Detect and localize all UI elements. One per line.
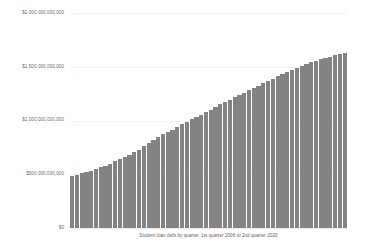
y-tick-label: $1,500,000,000,000	[0, 64, 64, 70]
bar	[94, 169, 98, 228]
bar	[343, 53, 347, 228]
bar	[185, 122, 189, 228]
bar	[161, 134, 165, 228]
bar	[108, 164, 112, 229]
bar	[142, 146, 146, 228]
bar	[123, 157, 127, 228]
bar	[84, 172, 88, 228]
bar	[147, 143, 151, 228]
bar	[223, 102, 227, 228]
y-tick-label: $1,000,000,000,000	[0, 117, 64, 123]
bar	[80, 173, 84, 228]
bar	[113, 161, 117, 228]
bar	[271, 79, 275, 228]
bar	[237, 95, 241, 228]
bar	[256, 86, 260, 228]
bar	[261, 83, 265, 228]
bar	[180, 124, 184, 228]
bar	[218, 104, 222, 228]
bar	[213, 107, 217, 228]
y-tick-label: $2,000,000,000,000	[0, 10, 64, 16]
bar	[132, 152, 136, 228]
bar	[295, 68, 299, 228]
bar	[194, 117, 198, 228]
bar	[242, 93, 246, 228]
bar	[323, 58, 327, 228]
bar	[228, 100, 232, 228]
student-loan-debt-bar-chart: $2,000,000,000,000$1,500,000,000,000$1,0…	[0, 0, 367, 249]
bar	[247, 90, 251, 228]
bar	[209, 110, 213, 228]
bar	[166, 132, 170, 228]
bar	[70, 176, 74, 228]
bar	[204, 112, 208, 228]
bar	[137, 150, 141, 228]
bar	[103, 166, 107, 228]
bar	[314, 61, 318, 228]
gridline	[70, 228, 347, 229]
bar	[328, 57, 332, 228]
bar	[170, 130, 174, 228]
bar	[290, 70, 294, 228]
bar	[190, 119, 194, 228]
chart-caption: Student loan debt by quarter, 1st quarte…	[70, 232, 347, 239]
bar	[75, 175, 79, 228]
bar	[319, 59, 323, 228]
bar	[151, 140, 155, 228]
bar	[280, 74, 284, 228]
bar	[304, 64, 308, 228]
bar	[338, 54, 342, 228]
bar	[118, 159, 122, 228]
bar	[309, 62, 313, 228]
bar	[252, 88, 256, 228]
bar	[175, 127, 179, 228]
bar	[199, 115, 203, 228]
bar	[285, 72, 289, 228]
plot-area	[70, 13, 347, 228]
bar	[156, 137, 160, 228]
bar	[276, 76, 280, 228]
y-tick-label: $500,000,000,000	[0, 171, 64, 177]
y-tick-label: $0	[0, 225, 64, 231]
bar	[333, 55, 337, 228]
bar	[300, 66, 304, 228]
bar	[233, 97, 237, 228]
bar	[89, 171, 93, 229]
bar-series	[70, 13, 347, 228]
bar	[99, 167, 103, 228]
bar	[266, 81, 270, 228]
bar	[127, 155, 131, 228]
y-axis-tick-labels: $2,000,000,000,000$1,500,000,000,000$1,0…	[0, 0, 64, 249]
